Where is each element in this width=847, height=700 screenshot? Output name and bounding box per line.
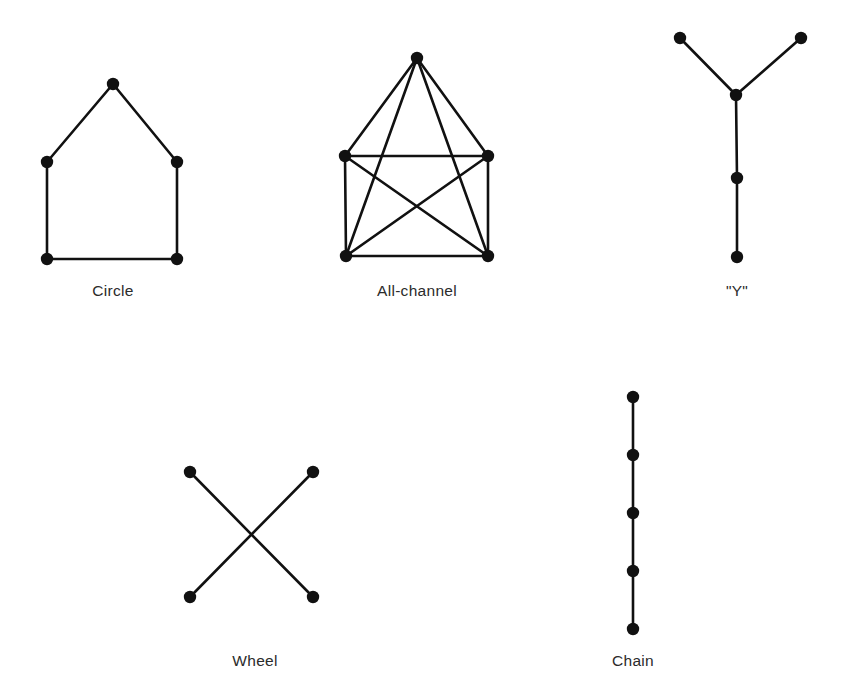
network-node <box>627 391 639 403</box>
network-edge <box>417 58 488 156</box>
network-edge <box>680 38 736 95</box>
network-edge <box>47 84 113 162</box>
network-node <box>482 250 494 262</box>
network-node <box>795 32 807 44</box>
network-all-channel: All-channel <box>339 52 494 299</box>
network-label-y: "Y" <box>726 282 748 299</box>
network-wheel: Wheel <box>184 466 319 669</box>
network-edge <box>113 84 177 162</box>
network-node <box>339 150 351 162</box>
network-node <box>307 591 319 603</box>
network-edges <box>190 472 313 597</box>
network-node <box>482 150 494 162</box>
network-node <box>184 466 196 478</box>
communication-networks-figure: CircleAll-channel"Y"WheelChain <box>0 0 847 700</box>
network-node <box>107 78 119 90</box>
network-node <box>171 156 183 168</box>
network-nodes <box>41 78 183 265</box>
network-node <box>730 89 742 101</box>
diagram-layer: CircleAll-channel"Y"WheelChain <box>41 32 807 669</box>
network-label-chain: Chain <box>612 652 654 669</box>
network-edge <box>345 156 346 256</box>
network-edge <box>736 95 737 178</box>
network-node <box>627 449 639 461</box>
network-edges <box>680 38 801 257</box>
network-node <box>184 591 196 603</box>
network-node <box>627 623 639 635</box>
network-node <box>41 253 53 265</box>
network-node <box>627 507 639 519</box>
network-edges <box>47 84 177 259</box>
network-node <box>340 250 352 262</box>
network-label-wheel: Wheel <box>232 652 277 669</box>
network-node <box>171 253 183 265</box>
network-circle: Circle <box>41 78 183 299</box>
network-edge <box>736 38 801 95</box>
network-edges <box>345 58 488 256</box>
network-label-all-channel: All-channel <box>377 282 457 299</box>
network-node <box>307 466 319 478</box>
network-node <box>674 32 686 44</box>
network-nodes <box>674 32 807 263</box>
network-node <box>731 251 743 263</box>
network-node <box>41 156 53 168</box>
network-node <box>627 565 639 577</box>
network-chain: Chain <box>612 391 654 669</box>
network-edge <box>345 58 417 156</box>
network-node <box>731 172 743 184</box>
network-diagram-canvas: CircleAll-channel"Y"WheelChain <box>0 0 847 700</box>
network-label-circle: Circle <box>92 282 133 299</box>
network-y: "Y" <box>674 32 807 299</box>
network-node <box>411 52 423 64</box>
